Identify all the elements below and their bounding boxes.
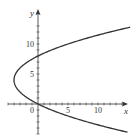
x-tick-labels: 0510 <box>30 106 102 115</box>
x-tick-label: 5 <box>66 106 70 115</box>
y-axis-label: y <box>29 8 34 18</box>
x-axis-label: x <box>123 106 128 116</box>
axes <box>8 9 128 134</box>
parabola-chart: x y 0510 510 <box>0 0 133 140</box>
x-tick-label: 0 <box>30 106 34 115</box>
chart-container: x y 0510 510 <box>0 0 133 140</box>
x-tick-label: 10 <box>94 106 102 115</box>
y-tick-label: 10 <box>26 40 34 49</box>
y-tick-label: 5 <box>30 70 34 79</box>
